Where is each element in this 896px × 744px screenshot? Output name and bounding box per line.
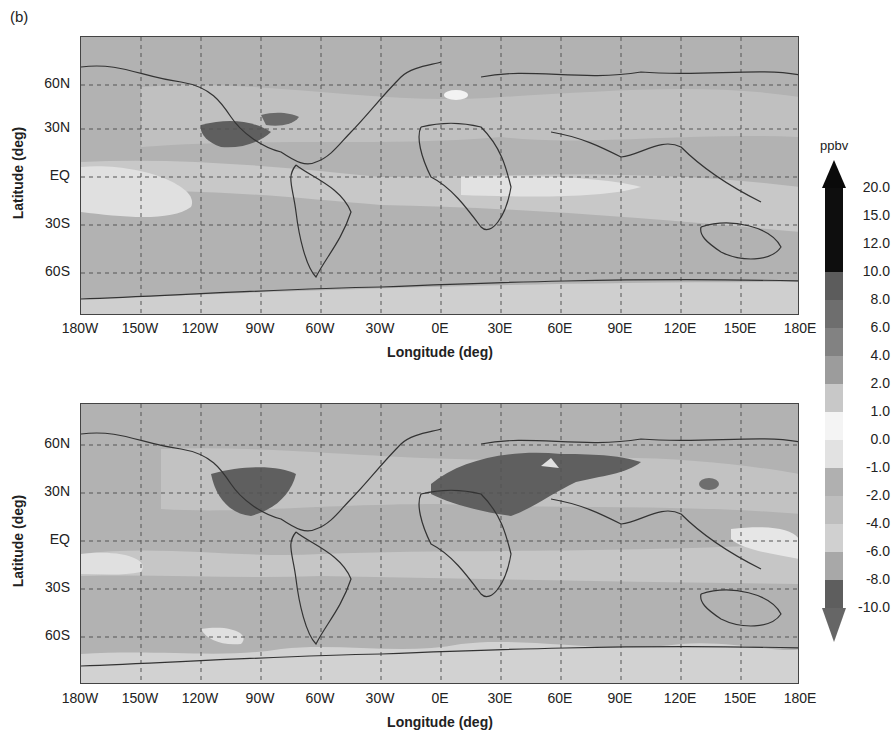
x-tick: 90E <box>590 320 650 336</box>
y-tick-60n-bottom: 60N <box>20 435 70 451</box>
colorbar-label: 8.0 <box>840 291 890 307</box>
x-tick: 180W <box>50 690 110 706</box>
y-tick-eq-top: EQ <box>20 167 70 183</box>
y-tick-60n-top: 60N <box>20 75 70 91</box>
x-tick: 60W <box>290 690 350 706</box>
x-tick: 180E <box>770 690 830 706</box>
x-tick: 30E <box>470 690 530 706</box>
colorbar-label: 12.0 <box>840 235 890 251</box>
colorbar-label: 10.0 <box>840 263 890 279</box>
x-tick: 120W <box>170 320 230 336</box>
x-tick: 60E <box>530 320 590 336</box>
y-tick-eq-bottom: EQ <box>20 531 70 547</box>
colorbar-label: -1.0 <box>840 459 890 475</box>
y-tick-60s-bottom: 60S <box>20 627 70 643</box>
x-axis-title-bottom: Longitude (deg) <box>290 714 590 730</box>
colorbar <box>822 160 846 642</box>
x-tick: 150W <box>110 320 170 336</box>
map-plot-bottom <box>80 403 799 684</box>
x-tick: 150E <box>710 320 770 336</box>
y-tick-60s-top: 60S <box>20 263 70 279</box>
x-tick: 60W <box>290 320 350 336</box>
colorbar-label: 0.0 <box>840 431 890 447</box>
colorbar-label: 1.0 <box>840 403 890 419</box>
x-tick: 30W <box>350 320 410 336</box>
colorbar-label: 6.0 <box>840 319 890 335</box>
panel-label: (b) <box>10 8 28 25</box>
y-tick-30s-bottom: 30S <box>20 579 70 595</box>
x-tick: 60E <box>530 690 590 706</box>
x-tick: 180E <box>770 320 830 336</box>
map-shading-bottom <box>81 404 799 684</box>
y-tick-30n-bottom: 30N <box>20 483 70 499</box>
y-tick-30s-top: 30S <box>20 215 70 231</box>
x-tick: 90W <box>230 320 290 336</box>
map-plot-top <box>80 36 799 315</box>
colorbar-label: -2.0 <box>840 487 890 503</box>
colorbar-label: -4.0 <box>840 515 890 531</box>
colorbar-label: 2.0 <box>840 375 890 391</box>
colorbar-label: -6.0 <box>840 543 890 559</box>
colorbar-unit: ppbv <box>820 138 848 153</box>
x-tick: 120E <box>650 320 710 336</box>
colorbar-label: 15.0 <box>840 207 890 223</box>
x-tick: 30W <box>350 690 410 706</box>
y-axis-title-bottom: Latitude (deg) <box>10 461 26 621</box>
x-axis-title-top: Longitude (deg) <box>290 344 590 360</box>
x-tick: 120E <box>650 690 710 706</box>
x-tick: 0E <box>410 320 470 336</box>
colorbar-label: 20.0 <box>840 179 890 195</box>
colorbar-label: -10.0 <box>840 599 890 615</box>
y-axis-title-top: Latitude (deg) <box>10 93 26 253</box>
x-tick: 150E <box>710 690 770 706</box>
map-shading-top <box>81 37 799 315</box>
x-tick: 120W <box>170 690 230 706</box>
y-tick-30n-top: 30N <box>20 119 70 135</box>
colorbar-label: 4.0 <box>840 347 890 363</box>
x-tick: 90E <box>590 690 650 706</box>
x-tick: 30E <box>470 320 530 336</box>
x-tick: 180W <box>50 320 110 336</box>
colorbar-label: -8.0 <box>840 571 890 587</box>
x-tick: 90W <box>230 690 290 706</box>
x-tick: 150W <box>110 690 170 706</box>
x-tick: 0E <box>410 690 470 706</box>
